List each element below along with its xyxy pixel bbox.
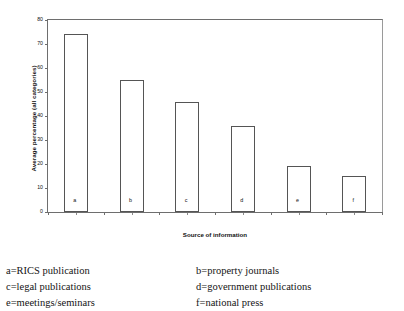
chart-key: a=RICS publicationb=property journalsc=l… <box>6 263 398 310</box>
x-axis-tick-mark <box>382 212 383 215</box>
y-axis-tick-label: 40 <box>37 112 43 118</box>
x-axis-minor-tick-mark <box>187 213 188 215</box>
y-axis-tick-mark <box>45 140 48 141</box>
bar-f <box>342 176 366 212</box>
x-axis-tick-label-c: c <box>176 197 196 203</box>
y-axis-tick-mark <box>45 188 48 189</box>
key-item: e=meetings/seminars <box>6 295 196 310</box>
y-axis-tick-label: 30 <box>37 136 43 142</box>
bar-b <box>120 80 144 212</box>
y-axis-tick-mark <box>45 92 48 93</box>
x-axis-tick-label-d: d <box>232 197 252 203</box>
y-axis-tick-mark <box>45 68 48 69</box>
y-axis-tick-mark <box>45 44 48 45</box>
plot-area: 01020304050607080 <box>47 19 383 213</box>
x-axis-minor-tick-mark <box>76 213 77 215</box>
key-item: a=RICS publication <box>6 263 196 278</box>
x-axis-tick-label-f: f <box>343 197 363 203</box>
x-axis-tick-label-a: a <box>65 197 85 203</box>
x-axis-minor-tick-mark <box>354 213 355 215</box>
y-axis-tick-mark <box>45 20 48 21</box>
bar-a <box>64 34 88 212</box>
y-axis-tick-label: 70 <box>37 40 43 46</box>
x-axis-tick-label-b: b <box>121 197 141 203</box>
x-axis-tick-mark <box>271 212 272 215</box>
x-axis-tick-mark <box>215 212 216 215</box>
x-axis-tick-mark <box>104 212 105 215</box>
bar-chart-figure: Average percentage (all categories) 0102… <box>0 0 404 311</box>
y-axis-tick-label: 0 <box>40 208 43 214</box>
x-axis-title: Source of information <box>47 231 383 238</box>
bar-e <box>287 166 311 212</box>
y-axis-tick-label: 50 <box>37 88 43 94</box>
key-item: f=national press <box>196 295 396 310</box>
y-axis-title: Average percentage (all categories) <box>30 24 37 214</box>
key-item: c=legal publications <box>6 279 196 294</box>
x-axis-tick-mark <box>48 212 49 215</box>
y-axis-tick-mark <box>45 116 48 117</box>
y-axis-tick-label: 10 <box>37 184 43 190</box>
key-item: d=government publications <box>196 279 396 294</box>
x-axis-minor-tick-mark <box>243 213 244 215</box>
key-item: b=property journals <box>196 263 396 278</box>
x-axis-minor-tick-mark <box>132 213 133 215</box>
bar-c <box>175 102 199 212</box>
x-axis-tick-mark <box>159 212 160 215</box>
y-axis-tick-label: 20 <box>37 160 43 166</box>
y-axis-tick-label: 60 <box>37 64 43 70</box>
x-axis-tick-mark <box>326 212 327 215</box>
x-axis-tick-label-e: e <box>288 197 308 203</box>
x-axis-minor-tick-mark <box>299 213 300 215</box>
y-axis-tick-label: 80 <box>37 16 43 22</box>
y-axis-tick-mark <box>45 164 48 165</box>
